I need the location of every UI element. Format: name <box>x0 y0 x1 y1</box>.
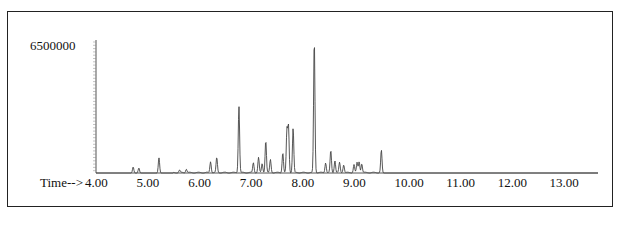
x-tick-label: 7.00 <box>240 175 263 191</box>
x-tick-label: 11.00 <box>446 175 475 191</box>
x-tick-label: 6.00 <box>188 175 211 191</box>
x-tick-label: 10.00 <box>395 175 424 191</box>
x-tick-label: 8.00 <box>291 175 314 191</box>
x-tick-label: 12.00 <box>498 175 527 191</box>
x-tick-label: 13.00 <box>549 175 578 191</box>
x-tick-label: 5.00 <box>137 175 160 191</box>
x-axis-title: Time--> <box>40 175 83 191</box>
x-tick-label: 9.00 <box>343 175 366 191</box>
chromatogram-trace <box>96 48 598 173</box>
x-tick-label: 4.00 <box>85 175 108 191</box>
y-axis-max-label: 6500000 <box>30 38 76 54</box>
